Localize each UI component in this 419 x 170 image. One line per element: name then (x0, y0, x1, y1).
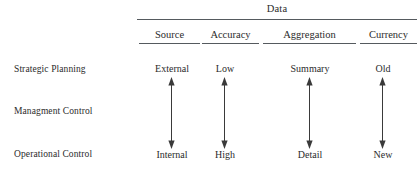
aggregation-range-arrow-icon (303, 77, 316, 149)
cell-source-operational: Internal (142, 149, 202, 161)
column-header-aggregation: Aggregation (263, 29, 356, 44)
group-header-rule (137, 19, 417, 20)
currency-range-arrow-icon (376, 77, 389, 149)
data-characteristics-matrix-figure: Data Source Accuracy Aggregation Currenc… (0, 0, 419, 170)
source-range-arrow-icon (165, 77, 178, 149)
column-header-currency: Currency (360, 29, 417, 44)
column-header-accuracy: Accuracy (202, 29, 259, 44)
row-label-strategic-planning: Strategic Planning (14, 64, 134, 75)
cell-accuracy-operational: High (197, 149, 253, 161)
cell-currency-operational: New (356, 149, 410, 161)
cell-accuracy-strategic: Low (197, 63, 253, 75)
group-header-data: Data (137, 3, 417, 15)
cell-aggregation-strategic: Summary (266, 63, 354, 75)
row-label-operational-control: Operational Control (14, 149, 134, 160)
accuracy-range-arrow-icon (218, 77, 231, 149)
cell-currency-strategic: Old (356, 63, 410, 75)
row-label-managment-control: Managment Control (14, 106, 134, 117)
cell-source-strategic: External (142, 63, 202, 75)
cell-aggregation-operational: Detail (266, 149, 354, 161)
column-header-source: Source (139, 29, 200, 44)
